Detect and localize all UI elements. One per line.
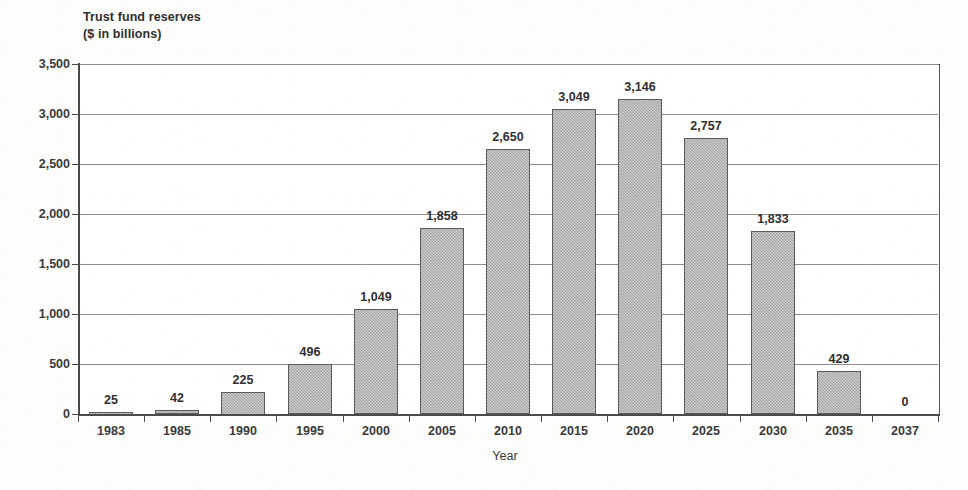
y-axis-tick-label: 1,000: [4, 308, 70, 321]
bar: [751, 231, 795, 414]
y-axis-tick-label: 2,000: [4, 208, 70, 221]
y-axis-tick-label: 500: [4, 358, 70, 371]
y-axis-tick-label: 3,000: [4, 108, 70, 121]
gridline: [78, 114, 938, 115]
bar-value-label: 0: [865, 396, 945, 409]
chart-title: Trust fund reserves ($ in billions): [83, 9, 201, 43]
y-axis-tick-label: 3,500: [4, 58, 70, 71]
bar-value-label: 2,650: [468, 131, 548, 144]
x-axis-tick-mark: [343, 416, 344, 422]
y-axis-tick-label: 2,500: [4, 158, 70, 171]
x-axis-tick-mark: [607, 416, 608, 422]
x-axis-tick-mark: [872, 416, 873, 422]
chart-title-line-1: Trust fund reserves: [83, 9, 201, 26]
bar-value-label: 3,146: [600, 81, 680, 94]
x-axis-tick-mark: [210, 416, 211, 422]
bar: [420, 228, 464, 414]
x-axis-tick-label: 2037: [865, 425, 945, 438]
bar-value-label: 1,833: [733, 213, 813, 226]
y-axis-tick-label: 1,500: [4, 258, 70, 271]
bar-value-label: 1,858: [402, 210, 482, 223]
bar-value-label: 2,757: [666, 120, 746, 133]
x-axis-tick-mark: [409, 416, 410, 422]
gridline: [78, 64, 938, 65]
bar: [486, 149, 530, 414]
bar: [817, 371, 861, 414]
chart-title-line-2: ($ in billions): [83, 26, 201, 43]
bar: [288, 364, 332, 414]
bar: [552, 109, 596, 414]
x-axis-title: Year: [0, 449, 968, 463]
bar: [221, 392, 265, 415]
x-axis-tick-mark: [276, 416, 277, 422]
bar: [618, 99, 662, 414]
y-axis-line: [78, 63, 80, 416]
bar-value-label: 429: [799, 353, 879, 366]
x-axis-tick-mark: [541, 416, 542, 422]
x-axis-tick-mark: [740, 416, 741, 422]
bar: [684, 138, 728, 414]
x-axis-tick-mark: [938, 416, 939, 422]
bar: [354, 309, 398, 414]
x-axis-tick-mark: [475, 416, 476, 422]
bar-chart-figure: Trust fund reserves ($ in billions) 0500…: [0, 0, 968, 490]
x-axis-tick-mark: [673, 416, 674, 422]
x-axis-tick-mark: [806, 416, 807, 422]
bar-value-label: 496: [270, 346, 350, 359]
bar-value-label: 1,049: [336, 291, 416, 304]
x-axis-title-text: Year: [492, 449, 517, 463]
x-axis-tick-mark: [78, 416, 79, 422]
x-axis-tick-mark: [144, 416, 145, 422]
bar-value-label: 42: [137, 392, 217, 405]
bar-value-label: 225: [203, 374, 283, 387]
y-axis-tick-label: 0: [4, 408, 70, 421]
x-axis-line: [78, 414, 940, 416]
